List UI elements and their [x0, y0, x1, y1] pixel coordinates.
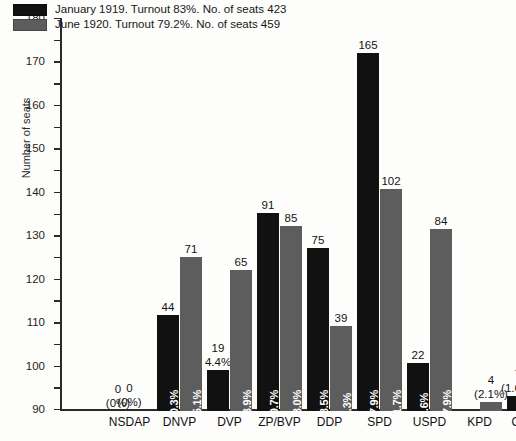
bar[interactable]: 9119.7%: [257, 213, 279, 411]
bar-group: 7518.5%398.3%: [307, 20, 352, 411]
bar[interactable]: 8518.0%: [280, 226, 302, 411]
y-tick: 160: [54, 61, 60, 62]
bar-value-label: 19: [212, 342, 225, 354]
bar[interactable]: 10221.7%: [380, 189, 402, 411]
y-tick: 90: [54, 214, 60, 215]
bar-value-label: 91: [262, 199, 275, 211]
y-tick-label: 120: [26, 273, 45, 285]
legend-label-june-1920: June 1920. Turnout 79.2%. No. of seats 4…: [55, 17, 280, 32]
y-tick: 30: [54, 344, 60, 345]
bar-value-label: 84: [435, 215, 448, 227]
bar-fill: [357, 53, 379, 411]
y-tick: 0: [54, 409, 60, 410]
bar-group: 7(1.6%)9(2.9%): [507, 20, 516, 411]
bar-value-label: 39: [335, 312, 348, 324]
bar[interactable]: 194.4%: [207, 370, 229, 411]
bar-group: 4(2.1%): [457, 20, 502, 411]
zero-percent: (0%): [107, 395, 152, 409]
bar[interactable]: 4(2.1%): [480, 402, 502, 411]
chart-legend: January 1919. Turnout 83%. No. of seats …: [13, 2, 286, 32]
bar[interactable]: 7115.1%: [180, 257, 202, 411]
bar-group: 16537.9%10221.7%: [357, 20, 402, 411]
bar[interactable]: 7(1.6%): [507, 396, 516, 411]
bar[interactable]: 7518.5%: [307, 248, 329, 411]
y-tick: 140: [54, 105, 60, 106]
y-tick: 20: [54, 366, 60, 367]
bar-fill: [180, 257, 202, 411]
bar-percent-label: 4.4%: [205, 356, 231, 368]
y-tick-label: 110: [27, 316, 45, 328]
x-category-label: USPD: [413, 415, 446, 429]
bar-fill: [480, 402, 502, 411]
bar-percent-label: (1.6%): [501, 382, 516, 394]
y-tick-label: 130: [26, 229, 45, 241]
bar[interactable]: 6513.9%: [230, 270, 252, 411]
bar-value-label: 165: [358, 39, 377, 51]
bar-value-label: 65: [235, 256, 248, 268]
bar-fill: [430, 229, 452, 411]
x-category-label: DVP: [217, 415, 242, 429]
bar-value-label: 71: [185, 243, 198, 255]
x-category-label: KPD: [467, 415, 492, 429]
y-tick: 80: [54, 235, 60, 236]
legend-item-january-1919: January 1919. Turnout 83%. No. of seats …: [13, 2, 286, 17]
x-category-label: DNVP: [163, 415, 196, 429]
bar-value-label: 4: [488, 374, 494, 386]
bar-percent-label: 13.9%: [241, 390, 253, 420]
legend-swatch-june-1920: [13, 19, 47, 31]
y-tick: 70: [54, 257, 60, 258]
bar-value-label: 75: [312, 234, 325, 246]
bar[interactable]: 398.3%: [330, 326, 352, 411]
bar[interactable]: 227.6%: [407, 363, 429, 411]
y-tick: 120: [54, 148, 60, 149]
y-tick: 170: [54, 40, 60, 41]
bar-chart: Number of seats 010203040506070809010011…: [0, 0, 516, 441]
x-category-label: Others: [511, 415, 516, 429]
zero-value: 0: [107, 381, 152, 395]
y-tick: 110: [54, 170, 60, 171]
x-category-label: DDP: [317, 415, 342, 429]
y-tick: 150: [54, 83, 60, 84]
zero-value-annotation: 0(0%): [107, 381, 152, 409]
bar-fill: [207, 370, 229, 411]
y-tick: 100: [54, 192, 60, 193]
bar-value-label: 44: [162, 301, 175, 313]
bar-group: 227.6%8417.9%: [407, 20, 452, 411]
bar-fill: [257, 213, 279, 411]
bar-group: 4410.3%7115.1%: [157, 20, 202, 411]
legend-swatch-january-1919: [13, 4, 47, 16]
y-tick-label: 100: [26, 360, 45, 372]
y-tick: 40: [54, 322, 60, 323]
bar-fill: [280, 226, 302, 411]
y-tick: 50: [54, 300, 60, 301]
x-category-label: SPD: [367, 415, 392, 429]
y-tick: 60: [54, 279, 60, 280]
bar-group: 9119.7%8518.0%: [257, 20, 302, 411]
bar-percent-label: 21.7%: [391, 390, 403, 420]
bar[interactable]: 16537.9%: [357, 53, 379, 411]
bar-value-label: 102: [381, 175, 400, 187]
x-category-label: NSDAP: [109, 415, 150, 429]
y-tick: 10: [54, 387, 60, 388]
bar-fill: [380, 189, 402, 411]
bar-value-label: 22: [412, 349, 425, 361]
bar-group: 0(0%)0(0%): [107, 20, 152, 411]
bar-percent-label: 7.6%: [418, 393, 430, 417]
bar[interactable]: 8417.9%: [430, 229, 452, 411]
legend-label-january-1919: January 1919. Turnout 83%. No. of seats …: [55, 2, 286, 17]
y-tick-label: 150: [26, 142, 45, 154]
y-tick-label: 170: [26, 55, 45, 67]
y-tick: 130: [54, 127, 60, 128]
bar-fill: [507, 396, 516, 411]
y-tick-label: 90: [32, 403, 45, 415]
y-tick-label: 160: [26, 99, 45, 111]
bar[interactable]: 4410.3%: [157, 315, 179, 411]
bar-fill: [307, 248, 329, 411]
y-tick-label: 140: [26, 186, 45, 198]
bar-value-label: 85: [285, 212, 298, 224]
bar-group: 194.4%6513.9%: [207, 20, 252, 411]
plot-area: 0102030405060708090100110120130140150160…: [60, 18, 512, 411]
y-axis-line: [60, 18, 62, 411]
bar-percent-label: 8.3%: [341, 393, 353, 417]
x-category-label: ZP/BVP: [258, 415, 301, 429]
